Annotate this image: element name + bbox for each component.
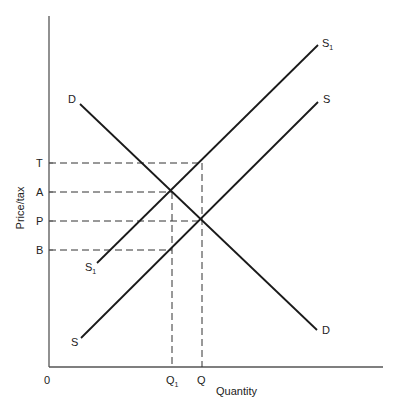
label-Q1: Q1 bbox=[166, 374, 179, 388]
s-bottom-label: S bbox=[71, 336, 78, 348]
supply-curve-s bbox=[81, 102, 318, 338]
origin-label: 0 bbox=[44, 374, 50, 386]
x-axis-label: Quantity bbox=[216, 385, 257, 397]
s-top-label: S bbox=[323, 93, 330, 105]
label-P: P bbox=[36, 215, 43, 227]
s1-top-label: S1 bbox=[322, 37, 333, 51]
y-axis-label: Price/tax bbox=[14, 186, 26, 229]
demand-start-label: D bbox=[68, 93, 76, 105]
label-B: B bbox=[36, 244, 43, 256]
s1-bottom-label: S1 bbox=[85, 261, 96, 275]
tax-incidence-diagram: T A P B Price/tax 0 Q1 Q Quantity D D S1… bbox=[0, 0, 398, 409]
label-A: A bbox=[36, 186, 44, 198]
demand-end-label: D bbox=[322, 324, 330, 336]
label-Q: Q bbox=[197, 374, 206, 386]
supply-curve-s1 bbox=[97, 45, 318, 263]
label-T: T bbox=[36, 157, 43, 169]
